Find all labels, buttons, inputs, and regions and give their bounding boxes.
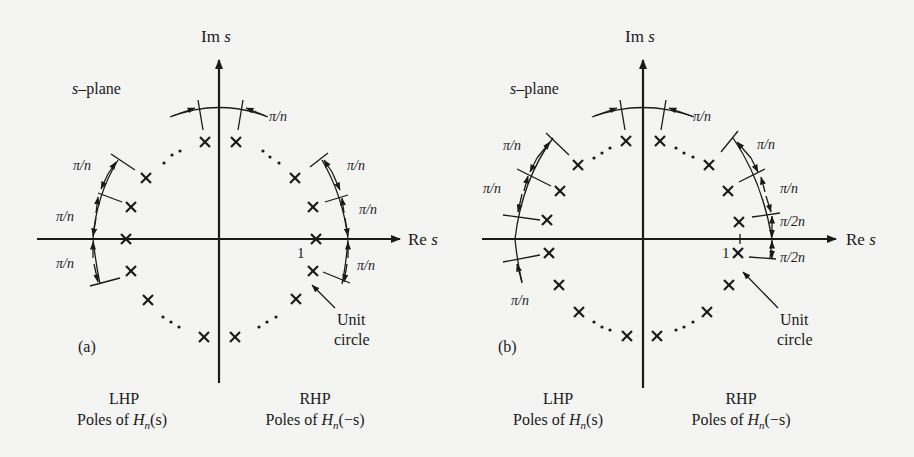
angle-label: π/n: [693, 109, 711, 124]
butterworth-pole-diagram: Im s Re s s–plane 1 (a): [0, 0, 914, 457]
angle-label: π/n: [359, 202, 377, 217]
unit-marker: 1: [722, 245, 730, 261]
unit-circle-arc-left: [515, 138, 553, 283]
unit-circle-label: Unit: [780, 311, 809, 328]
angle-label: π/n: [56, 209, 74, 224]
lhp-caption: Poles of Hn(s): [77, 411, 167, 431]
plane-label: s–plane: [510, 80, 559, 98]
lhp-title: LHP: [543, 390, 573, 407]
angle-label: π/n: [56, 256, 74, 271]
angle-label: π/n: [503, 138, 521, 153]
angle-label: π/n: [73, 158, 91, 173]
unit-circle-label: Unit: [337, 311, 366, 328]
lhp-title: LHP: [109, 390, 139, 407]
unit-marker: 1: [297, 245, 305, 261]
angle-label: π/n: [269, 109, 287, 124]
lhp-caption: Poles of Hn(s): [513, 411, 603, 431]
angle-label: π/2n: [780, 250, 805, 265]
panel-a: Im s Re s s–plane 1 (a): [37, 27, 438, 431]
angle-label: π/n: [483, 181, 501, 196]
rhp-caption: Poles of Hn(−s): [692, 411, 791, 431]
panel-label: (b): [498, 338, 517, 356]
plane-label: s–plane: [72, 80, 121, 98]
rhp-title: RHP: [299, 390, 330, 407]
unit-circle-pointer: [312, 285, 335, 308]
angle-label: π/n: [757, 137, 775, 152]
re-axis-label: Re s: [846, 230, 876, 249]
angle-label: π/n: [347, 158, 365, 173]
unit-circle-pointer: [743, 272, 778, 308]
re-axis-label: Re s: [408, 230, 438, 249]
im-axis-label: Im s: [625, 27, 655, 46]
angle-label: π/n: [357, 258, 375, 273]
rhp-title: RHP: [725, 390, 756, 407]
angle-label: π/2n: [780, 214, 805, 229]
unit-circle-label: circle: [334, 331, 370, 348]
angle-label: π/n: [780, 181, 798, 196]
angle-label: π/n: [511, 293, 529, 308]
panel-label: (a): [78, 338, 96, 356]
rhp-caption: Poles of Hn(−s): [266, 411, 365, 431]
unit-circle-label: circle: [777, 331, 813, 348]
panel-b: Im s Re s s–plane 1 (b): [482, 27, 876, 431]
im-axis-label: Im s: [201, 27, 231, 46]
